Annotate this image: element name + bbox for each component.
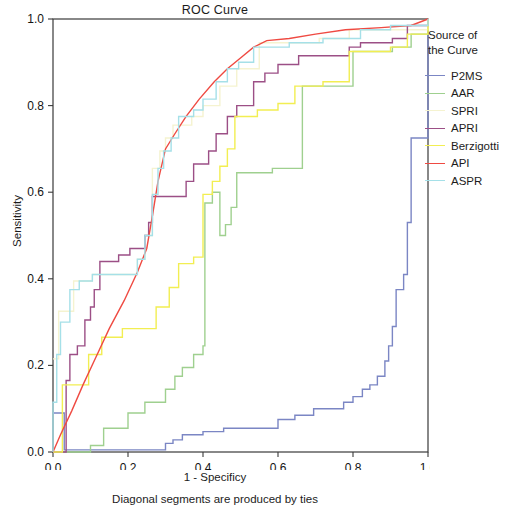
y-axis-tick-label: 0.6 bbox=[27, 185, 44, 199]
legend-color-swatch bbox=[425, 145, 445, 146]
y-axis-title: Sensitivity bbox=[11, 176, 23, 266]
x-axis-tick-label: 0.6 bbox=[270, 461, 287, 470]
legend-color-swatch bbox=[425, 128, 445, 129]
legend-item-label: APRI bbox=[451, 122, 478, 134]
legend-item: SPRI bbox=[425, 102, 523, 120]
legend-color-swatch bbox=[425, 163, 445, 164]
figure-footnote: Diagonal segments are produced by ties bbox=[0, 493, 430, 505]
legend-item-label: ASPR bbox=[451, 175, 482, 187]
roc-curve-figure: ROC Curve 0.00.20.40.60.81.00.00.20.40.6… bbox=[0, 0, 523, 518]
plot-canvas: 0.00.20.40.60.81.00.00.20.40.60.81.0 bbox=[0, 0, 430, 470]
legend-item-label: AAR bbox=[451, 87, 475, 99]
legend-item: API bbox=[425, 155, 523, 173]
legend-item-label: SPRI bbox=[451, 105, 478, 117]
legend-item: AAR bbox=[425, 85, 523, 103]
x-axis-tick-label: 0.4 bbox=[195, 461, 212, 470]
legend: Source of the Curve P2MSAARSPRIAPRIBerzi… bbox=[425, 28, 523, 190]
legend-item-label: API bbox=[451, 157, 470, 169]
legend-item-label: P2MS bbox=[451, 70, 482, 82]
legend-item-list: P2MSAARSPRIAPRIBerzigottiAPIASPR bbox=[425, 67, 523, 190]
legend-color-swatch bbox=[425, 93, 445, 94]
legend-color-swatch bbox=[425, 75, 445, 76]
legend-title-line1: Source of bbox=[428, 28, 523, 43]
x-axis-tick-label: 0.8 bbox=[345, 461, 362, 470]
x-axis-tick-label: 0.2 bbox=[120, 461, 137, 470]
x-axis-tick-label: 0.0 bbox=[45, 461, 62, 470]
legend-item: ASPR bbox=[425, 172, 523, 190]
legend-item-label: Berzigotti bbox=[451, 140, 499, 152]
legend-item: P2MS bbox=[425, 67, 523, 85]
x-axis-tick-label: 1.0 bbox=[420, 461, 430, 470]
y-axis-tick-label: 0.2 bbox=[27, 358, 44, 372]
y-axis-tick-label: 0.0 bbox=[27, 445, 44, 459]
legend-color-swatch bbox=[425, 110, 445, 111]
legend-item: APRI bbox=[425, 120, 523, 138]
y-axis-tick-label: 0.4 bbox=[27, 272, 44, 286]
plot-frame bbox=[53, 19, 428, 452]
legend-color-swatch bbox=[425, 180, 445, 181]
y-axis-tick-label: 1.0 bbox=[27, 12, 44, 26]
y-axis-tick-label: 0.8 bbox=[27, 99, 44, 113]
legend-title-line2: the Curve bbox=[428, 43, 523, 58]
legend-item: Berzigotti bbox=[425, 137, 523, 155]
x-axis-title: 1 - Specificy bbox=[0, 471, 430, 483]
